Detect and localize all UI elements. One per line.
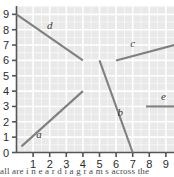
line-slope-chart-figure: 1234567890123456789 abcde all are i n e … [0,0,174,177]
y-tick-label: 0 [3,147,9,159]
y-tick-label: 3 [3,100,9,112]
y-tick-label: 1 [3,131,9,143]
series-label-c: c [130,37,135,49]
figure-caption: all are i n e a r d i a g r a m s across… [0,166,174,177]
series-label-d: d [47,19,53,31]
y-tick-label: 2 [3,116,9,128]
y-tick-label: 6 [3,54,9,66]
y-tick-label: 7 [3,39,9,51]
chart-canvas: 1234567890123456789 abcde [0,0,174,177]
y-tick-label: 9 [3,8,9,20]
y-tick-label: 4 [3,85,9,97]
series-label-a: a [36,128,42,140]
series-label-b: b [118,106,124,118]
y-tick-label: 5 [3,70,9,82]
series-label-e: e [161,90,166,102]
y-tick-label: 8 [3,24,9,36]
